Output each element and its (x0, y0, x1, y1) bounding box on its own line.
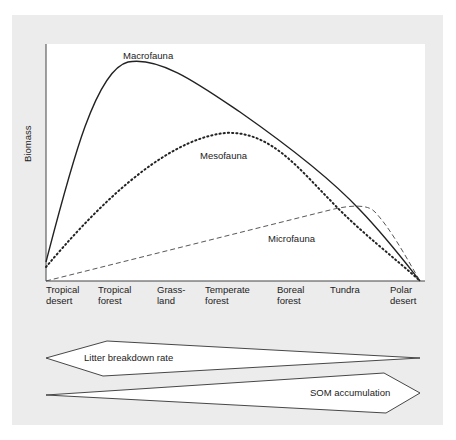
x-tick-boreal-forest: Boreal forest (277, 284, 304, 306)
microfauna-label: Microfauna (268, 233, 315, 244)
x-tick-tundra: Tundra (330, 284, 360, 295)
y-axis-label: Biomass (22, 126, 33, 162)
x-tick-tropical-forest: Tropical forest (98, 284, 131, 306)
x-tick-polar-desert: Polar desert (390, 284, 416, 306)
macrofauna-label: Macrofauna (123, 50, 173, 61)
plot-area (46, 44, 425, 281)
som-accumulation-label: SOM accumulation (310, 387, 390, 398)
chart-svg (0, 0, 456, 440)
x-tick-temperate-forest: Temperate forest (205, 284, 250, 306)
litter-breakdown-label: Litter breakdown rate (84, 352, 173, 363)
mesofauna-label: Mesofauna (200, 150, 247, 161)
x-tick-grassland: Grass- land (157, 284, 186, 306)
x-tick-tropical-desert: Tropical desert (46, 284, 79, 306)
